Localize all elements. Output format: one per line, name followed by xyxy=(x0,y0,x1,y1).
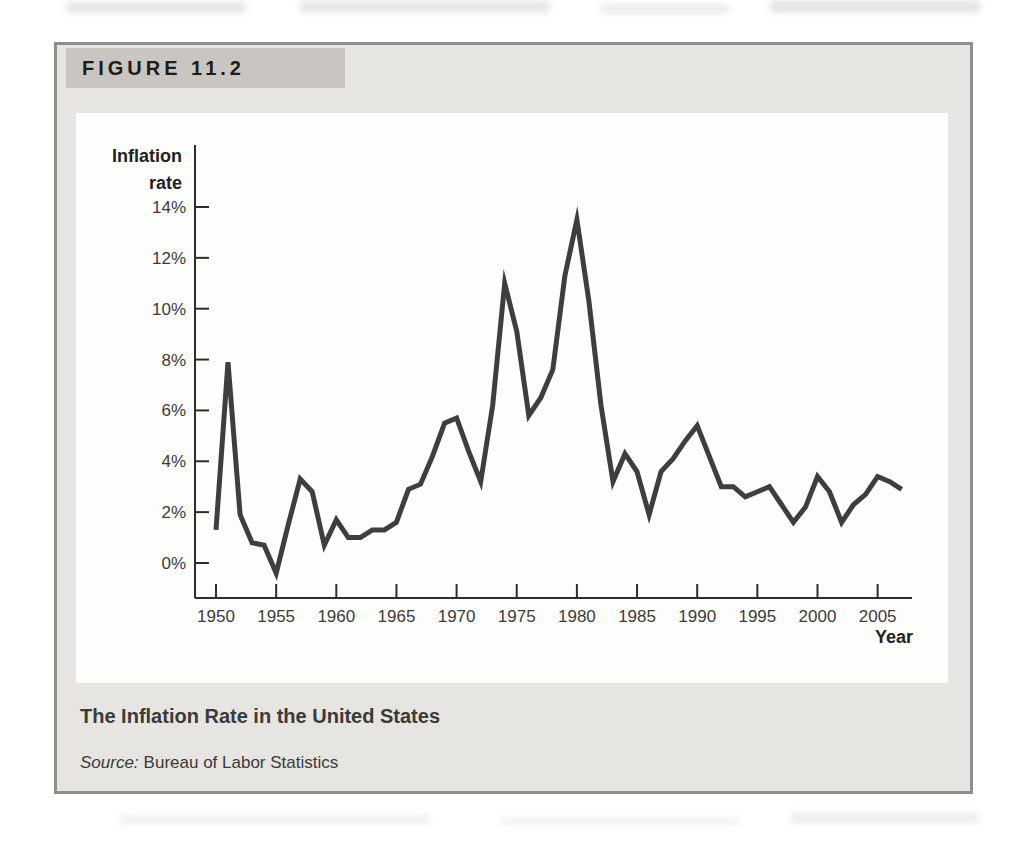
y-tick-label: 8% xyxy=(161,351,186,370)
page-bleed-artifact xyxy=(300,1,550,13)
x-tick-label: 1990 xyxy=(678,607,716,626)
x-tick-label: 1955 xyxy=(257,607,295,626)
x-tick-label: 2005 xyxy=(859,607,897,626)
x-tick-label: 1980 xyxy=(558,607,596,626)
x-tick-label: 1970 xyxy=(438,607,476,626)
figure-header-bar: FIGURE 11.2 xyxy=(66,48,345,88)
x-tick-label: 1975 xyxy=(498,607,536,626)
source-text: Bureau of Labor Statistics xyxy=(144,753,339,772)
y-axis-label: Inflation rate xyxy=(88,143,182,197)
x-tick-label: 1985 xyxy=(618,607,656,626)
x-tick-label: 2000 xyxy=(799,607,837,626)
inflation-chart-svg: 0%2%4%6%8%10%12%14%195019551960196519701… xyxy=(76,113,948,683)
x-axis-label: Year xyxy=(813,627,913,648)
y-tick-label: 6% xyxy=(161,401,186,420)
y-tick-label: 2% xyxy=(161,503,186,522)
source-prefix: Source: xyxy=(80,753,139,772)
x-tick-label: 1950 xyxy=(197,607,235,626)
source-line: Source:Bureau of Labor Statistics xyxy=(80,753,338,773)
y-tick-label: 14% xyxy=(152,198,186,217)
y-tick-label: 10% xyxy=(152,300,186,319)
page-bleed-artifact xyxy=(600,4,730,13)
chart-panel: 0%2%4%6%8%10%12%14%195019551960196519701… xyxy=(76,113,948,683)
figure-label: FIGURE 11.2 xyxy=(82,57,245,80)
page-root: { "figure": { "label": "FIGURE 11.2", "c… xyxy=(0,0,1026,846)
y-tick-label: 12% xyxy=(152,249,186,268)
page-bleed-artifact xyxy=(790,812,980,824)
x-tick-label: 1995 xyxy=(738,607,776,626)
figure-box: FIGURE 11.2 0%2%4%6%8%10%12%14%195019551… xyxy=(54,42,973,794)
caption-title: The Inflation Rate in the United States xyxy=(80,705,440,728)
y-tick-label: 4% xyxy=(161,452,186,471)
page-bleed-artifact xyxy=(770,0,980,13)
x-tick-label: 1965 xyxy=(378,607,416,626)
x-tick-label: 1960 xyxy=(317,607,355,626)
y-tick-label: 0% xyxy=(161,554,186,573)
page-bleed-artifact xyxy=(120,814,430,825)
page-bleed-artifact xyxy=(66,2,246,13)
inflation-line xyxy=(216,220,902,574)
page-bleed-artifact xyxy=(500,817,740,826)
